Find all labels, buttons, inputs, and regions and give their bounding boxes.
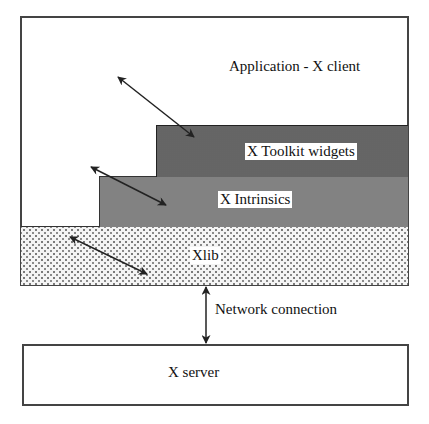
double-arrow-icon: [91, 167, 166, 205]
double-arrow-icon: [70, 237, 147, 274]
double-arrow-icon: [118, 77, 194, 137]
arrows-overlay: [0, 0, 429, 424]
